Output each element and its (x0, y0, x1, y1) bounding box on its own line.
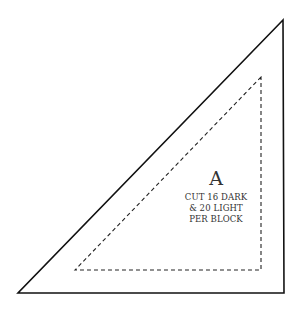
cutting-instructions: CUT 16 DARK & 20 LIGHT PER BLOCK (166, 192, 266, 225)
triangle-template (0, 0, 301, 311)
instruction-line: PER BLOCK (166, 214, 266, 225)
pattern-piece-a: A CUT 16 DARK & 20 LIGHT PER BLOCK (0, 0, 301, 311)
instruction-line: CUT 16 DARK (166, 192, 266, 203)
instruction-line: & 20 LIGHT (166, 203, 266, 214)
cutting-line (18, 20, 284, 293)
piece-letter: A (186, 168, 246, 188)
